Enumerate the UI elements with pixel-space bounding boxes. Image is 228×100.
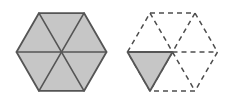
hexagon-diagram-svg: [0, 0, 228, 100]
figure-left-hexagon: [17, 13, 107, 91]
figure-right-hexagon: [128, 13, 218, 91]
hexagon-diagram-canvas: [0, 0, 228, 100]
right-triangle-left-upper-shaded: [128, 52, 173, 91]
